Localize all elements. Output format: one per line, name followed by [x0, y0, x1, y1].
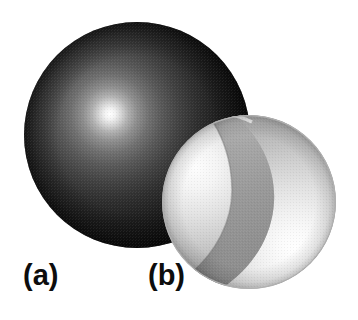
panel-label-a: (a) [23, 261, 58, 290]
panel-label-b: (b) [148, 261, 185, 290]
figure-container: (a) (b) [0, 0, 358, 320]
